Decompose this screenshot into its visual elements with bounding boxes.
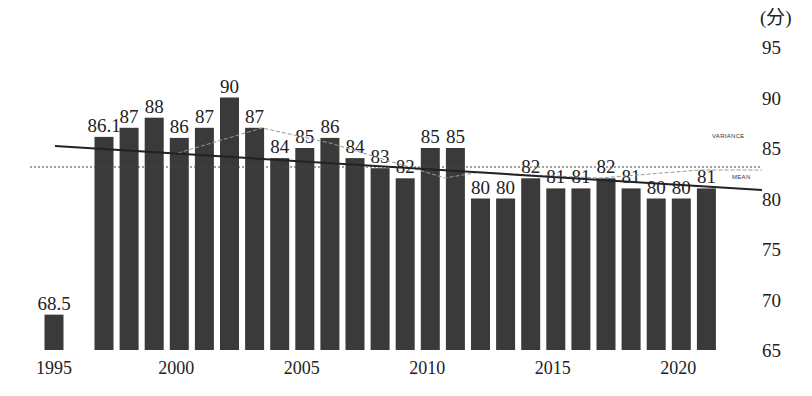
mean-label: MEAN bbox=[732, 174, 751, 180]
value-label-2001: 87 bbox=[195, 106, 214, 127]
bar-2013 bbox=[496, 199, 515, 351]
value-label-2006: 86 bbox=[320, 116, 339, 137]
bar-2021 bbox=[697, 188, 716, 350]
value-label-2020: 80 bbox=[672, 177, 691, 198]
value-label-2013: 80 bbox=[496, 177, 515, 198]
x-tick-2000: 2000 bbox=[158, 358, 194, 378]
bar-2020 bbox=[672, 199, 691, 351]
y-tick-70: 70 bbox=[762, 290, 781, 311]
value-label-1998: 87 bbox=[120, 106, 139, 127]
x-tick-2010: 2010 bbox=[409, 358, 445, 378]
value-label-2018: 81 bbox=[622, 166, 641, 187]
bar-2017 bbox=[597, 178, 616, 350]
value-label-2008: 83 bbox=[371, 146, 390, 167]
bar-2006 bbox=[320, 138, 339, 350]
bar-2000 bbox=[170, 138, 189, 350]
value-label-2005: 85 bbox=[295, 126, 314, 147]
variance-line bbox=[178, 128, 762, 178]
x-axis: 199520002005201020152020 bbox=[36, 358, 696, 378]
bar-2007 bbox=[346, 158, 365, 350]
value-label-1999: 88 bbox=[145, 96, 164, 117]
y-axis: 65707580859095 bbox=[762, 37, 781, 361]
x-tick-2015: 2015 bbox=[535, 358, 571, 378]
bar-2004 bbox=[270, 158, 289, 350]
x-tick-2005: 2005 bbox=[284, 358, 320, 378]
y-tick-85: 85 bbox=[762, 138, 781, 159]
bar-2018 bbox=[622, 188, 641, 350]
value-label-2007: 84 bbox=[346, 136, 366, 157]
y-tick-95: 95 bbox=[762, 37, 781, 58]
value-label-2019: 80 bbox=[647, 177, 666, 198]
bar-2005 bbox=[295, 148, 314, 350]
value-label-2011: 85 bbox=[446, 126, 465, 147]
bar-2009 bbox=[396, 178, 415, 350]
x-tick-2020: 2020 bbox=[660, 358, 696, 378]
bar-2001 bbox=[195, 128, 214, 350]
bar-2019 bbox=[647, 199, 666, 351]
y-tick-75: 75 bbox=[762, 239, 781, 260]
variance-label: VARIANCE bbox=[712, 133, 745, 139]
value-label-1995: 68.5 bbox=[37, 293, 70, 314]
bar-2014 bbox=[521, 178, 540, 350]
bar-2012 bbox=[471, 199, 490, 351]
bar-2011 bbox=[446, 148, 465, 350]
value-label-2010: 85 bbox=[421, 126, 440, 147]
bar-1998 bbox=[120, 128, 139, 350]
x-tick-1995: 1995 bbox=[36, 358, 72, 378]
y-tick-80: 80 bbox=[762, 189, 781, 210]
bar-2003 bbox=[245, 128, 264, 350]
bar-2015 bbox=[546, 188, 565, 350]
value-label-2012: 80 bbox=[471, 177, 490, 198]
value-label-2003: 87 bbox=[245, 106, 264, 127]
bar-2016 bbox=[571, 188, 590, 350]
value-label-2004: 84 bbox=[270, 136, 290, 157]
y-tick-90: 90 bbox=[762, 88, 781, 109]
bar-2010 bbox=[421, 148, 440, 350]
value-label-2002: 90 bbox=[220, 76, 239, 97]
bar-2008 bbox=[371, 168, 390, 350]
bar-1995 bbox=[45, 315, 64, 350]
y-tick-65: 65 bbox=[762, 340, 781, 361]
bar-1997 bbox=[95, 137, 114, 350]
value-label-1997: 86.1 bbox=[87, 115, 120, 136]
value-label-2000: 86 bbox=[170, 116, 189, 137]
y-unit-label: (分) bbox=[760, 7, 792, 29]
bar-chart: 68.586.187888687908784858684838285858080… bbox=[0, 0, 812, 396]
bars-group bbox=[45, 98, 716, 351]
